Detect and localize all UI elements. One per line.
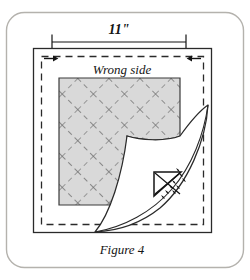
wrong-side-label: Wrong side	[93, 62, 152, 77]
figure-illustration-page: 11"	[0, 0, 250, 280]
figure-caption: Figure 4	[99, 242, 145, 257]
dimension-label: 11"	[109, 22, 130, 37]
figure-4-diagram: 11"	[0, 0, 250, 280]
